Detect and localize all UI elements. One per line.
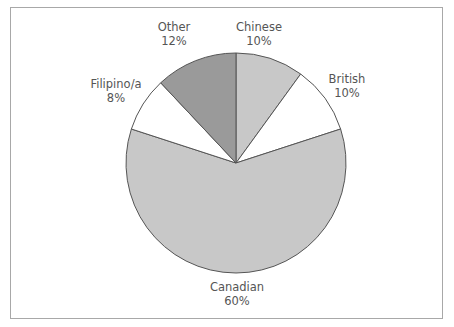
label-filipino-pct: 8%: [90, 91, 141, 105]
label-british-name: British: [329, 72, 366, 86]
label-british-pct: 10%: [329, 86, 366, 100]
label-other: Other 12%: [158, 20, 191, 48]
label-canadian-pct: 60%: [210, 294, 264, 308]
label-canadian-name: Canadian: [210, 280, 264, 294]
label-chinese-name: Chinese: [236, 20, 282, 34]
label-filipino-name: Filipino/a: [90, 77, 141, 91]
label-filipino: Filipino/a 8%: [90, 77, 141, 105]
label-chinese: Chinese 10%: [236, 20, 282, 48]
label-other-name: Other: [158, 20, 191, 34]
label-other-pct: 12%: [158, 34, 191, 48]
label-british: British 10%: [329, 72, 366, 100]
label-canadian: Canadian 60%: [210, 280, 264, 308]
pie-chart: [0, 0, 454, 327]
label-chinese-pct: 10%: [236, 34, 282, 48]
